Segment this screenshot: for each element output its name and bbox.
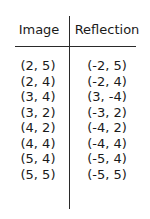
image-cell: (3, 2) <box>16 105 60 121</box>
reflection-cell: (-3, 2) <box>84 105 130 121</box>
reflection-cell: (3, -4) <box>84 89 130 105</box>
reflection-cell: (-2, 5) <box>84 58 130 74</box>
image-cell: (3, 4) <box>16 89 60 105</box>
header-divider <box>15 46 136 47</box>
table-body: (2, 5) (-2, 5) (2, 4) (-2, 4) (3, 4) (3,… <box>0 58 150 182</box>
table-row: (4, 2) (-4, 2) <box>0 120 150 136</box>
header-reflection: Reflection <box>74 22 140 38</box>
table-row: (2, 4) (-2, 4) <box>0 74 150 90</box>
table-row: (5, 4) (-5, 4) <box>0 151 150 167</box>
table-row: (3, 4) (3, -4) <box>0 89 150 105</box>
reflection-cell: (-4, 4) <box>84 136 130 152</box>
reflection-cell: (-2, 4) <box>84 74 130 90</box>
reflection-cell: (-4, 2) <box>84 120 130 136</box>
image-cell: (5, 4) <box>16 151 60 167</box>
table-row: (4, 4) (-4, 4) <box>0 136 150 152</box>
image-cell: (5, 5) <box>16 167 60 183</box>
reflection-cell: (-5, 5) <box>84 167 130 183</box>
table-row: (5, 5) (-5, 5) <box>0 167 150 183</box>
table-row: (3, 2) (-3, 2) <box>0 105 150 121</box>
reflection-cell: (-5, 4) <box>84 151 130 167</box>
image-cell: (4, 4) <box>16 136 60 152</box>
image-cell: (2, 4) <box>16 74 60 90</box>
header-image: Image <box>14 22 64 38</box>
image-cell: (2, 5) <box>16 58 60 74</box>
table-row: (2, 5) (-2, 5) <box>0 58 150 74</box>
image-cell: (4, 2) <box>16 120 60 136</box>
